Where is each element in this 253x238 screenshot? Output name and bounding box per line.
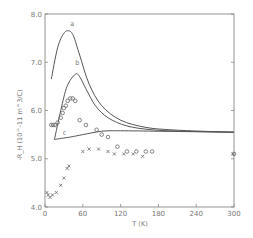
curve-label-b: b xyxy=(75,59,79,67)
cross-marker xyxy=(62,177,65,180)
axis-ticks: 0601201802403004.05.06.07.08.0 xyxy=(31,11,241,219)
x-tick-label: 60 xyxy=(78,210,87,218)
hall-coefficient-chart: 0601201802403004.05.06.07.08.0 abc T (K)… xyxy=(0,0,253,238)
cross-marker xyxy=(59,184,62,187)
cross-marker xyxy=(113,152,116,155)
y-tick-label: 5.0 xyxy=(31,155,42,163)
data-points xyxy=(45,97,235,199)
y-axis-label: -R_H (10^-11 m^3/C) xyxy=(16,89,24,160)
curves xyxy=(51,31,234,140)
circle-marker xyxy=(78,118,82,122)
circle-marker xyxy=(73,99,77,103)
circle-marker xyxy=(150,150,154,154)
circle-marker xyxy=(116,145,120,149)
cross-marker xyxy=(107,150,110,153)
y-tick-label: 8.0 xyxy=(31,11,42,19)
curve-a xyxy=(51,31,234,133)
x-tick-label: 180 xyxy=(152,210,165,218)
curve-label-a: a xyxy=(70,20,74,28)
curve-b xyxy=(54,74,234,140)
circle-marker xyxy=(61,111,65,115)
y-tick-label: 7.0 xyxy=(31,59,42,67)
y-tick-label: 4.0 xyxy=(31,204,42,212)
cross-marker xyxy=(122,152,125,155)
circle-marker xyxy=(135,150,139,154)
circle-marker xyxy=(62,106,66,110)
cross-marker xyxy=(67,164,70,167)
y-tick-label: 6.0 xyxy=(31,107,42,115)
cross-marker xyxy=(55,191,58,194)
circle-marker xyxy=(125,150,129,154)
cross-marker xyxy=(81,150,84,153)
circle-marker xyxy=(100,133,104,137)
circle-marker xyxy=(95,128,99,132)
x-tick-label: 300 xyxy=(227,210,240,218)
circle-marker xyxy=(64,104,68,108)
x-tick-label: 240 xyxy=(190,210,203,218)
curve-label-c: c xyxy=(63,129,67,137)
cross-marker xyxy=(97,148,100,151)
x-tick-label: 0 xyxy=(43,210,47,218)
cross-marker xyxy=(141,155,144,158)
x-tick-label: 120 xyxy=(114,210,127,218)
cross-marker xyxy=(88,148,91,151)
curve-c xyxy=(54,131,234,140)
plot-frame xyxy=(45,14,234,207)
circle-marker xyxy=(84,123,88,127)
x-axis-label: T (K) xyxy=(131,220,147,228)
cross-marker xyxy=(132,152,135,155)
circle-marker xyxy=(144,150,148,154)
cross-marker xyxy=(51,193,54,196)
circle-marker xyxy=(106,135,110,139)
